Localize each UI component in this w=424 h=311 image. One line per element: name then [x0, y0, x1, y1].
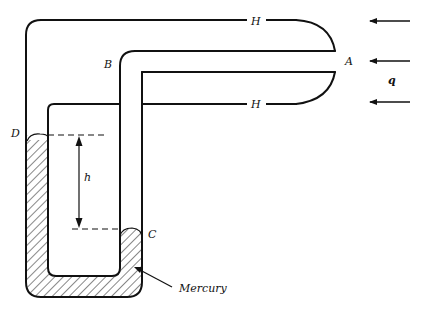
- label-h-top: H: [250, 15, 261, 28]
- label-q: q: [388, 74, 396, 87]
- label-h-bottom: H: [250, 98, 261, 111]
- label-b: B: [103, 58, 112, 71]
- inner-tube: [48, 51, 335, 276]
- label-a: A: [344, 55, 353, 68]
- label-d: D: [10, 127, 20, 140]
- height-dimension-arrow: [76, 136, 83, 228]
- label-h-height: h: [84, 171, 91, 184]
- flow-arrows: [370, 21, 410, 102]
- label-mercury: Mercury: [178, 282, 228, 295]
- label-c: C: [148, 228, 157, 241]
- mercury-fill: [27, 134, 142, 297]
- outer-tube: [26, 20, 335, 297]
- manometer-diagram: H H A B C D h q Mercury: [0, 0, 424, 311]
